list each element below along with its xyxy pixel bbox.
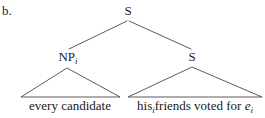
terminal-right-phrase: hisifriends voted for ei — [137, 99, 253, 112]
np-index-subscript: i — [75, 56, 78, 66]
figure-enumeration-label: b. — [2, 4, 12, 17]
terminal-right-predicate: friends voted for — [155, 98, 245, 113]
terminal-right-pronoun: his — [137, 98, 152, 113]
terminal-right-trace-index: i — [250, 105, 253, 115]
np-label-text: NP — [58, 49, 75, 64]
terminal-left-phrase: every candidate — [29, 99, 111, 112]
tree-node-root-s: S — [124, 4, 131, 17]
tree-node-embedded-s: S — [188, 50, 195, 63]
triangle-s2-phrase — [128, 67, 262, 97]
branch-root-to-np — [69, 21, 127, 49]
triangle-np-phrase — [21, 68, 120, 97]
terminal-right-pronoun-index: i — [152, 105, 155, 115]
tree-node-np: NPi — [58, 50, 77, 63]
syntax-tree-figure: b. S NPi S every candidate hisifriends v… — [0, 0, 265, 118]
branch-root-to-s2 — [129, 21, 191, 49]
